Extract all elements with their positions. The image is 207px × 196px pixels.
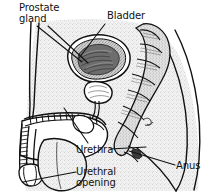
label-urethra: Urethra bbox=[76, 144, 113, 155]
anatomy-figure: Prostate gland Bladder Urethra Urethral … bbox=[0, 0, 207, 196]
prostate-gland bbox=[84, 82, 112, 104]
label-urethral-opening: Urethral opening bbox=[76, 166, 116, 188]
label-anus: Anus bbox=[176, 160, 200, 171]
label-prostate-gland: Prostate gland bbox=[19, 2, 59, 24]
label-bladder: Bladder bbox=[107, 10, 145, 21]
